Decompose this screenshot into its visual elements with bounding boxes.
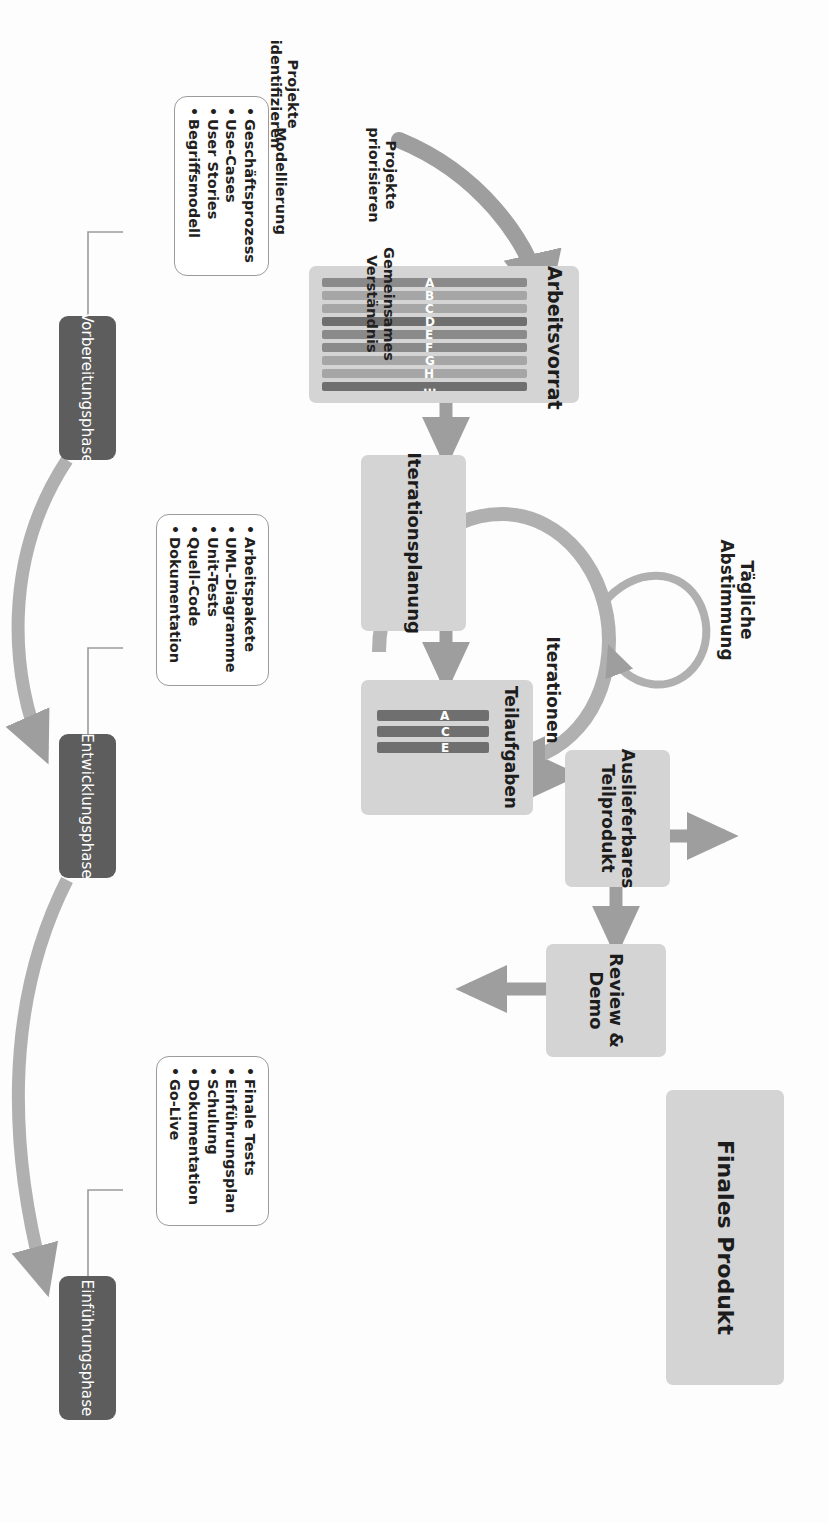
deliverables-box-entwicklungsphase[interactable]: ArbeitspaketeUML-DiagrammeUnit-TestsQuel… [156,514,269,686]
deliverable-item: Einführungsplan [222,1067,241,1213]
subtask-item-C[interactable]: C [377,726,489,737]
phase-bar-label: Vorbereitungsphase [79,312,97,464]
backlog-item-D[interactable]: D [322,317,527,326]
connector-vorbereitung [88,232,123,316]
backlog-item-C[interactable]: C [322,304,527,313]
iteration-planning-label: Iterationsplanung [403,452,423,634]
phase-bar-entwicklungsphase[interactable]: Entwicklungsphase [59,734,116,878]
connector-entwicklung [88,648,123,734]
backlog-item-G[interactable]: G [322,356,527,365]
connector-einfuehrung [88,1190,123,1276]
deliverable-box[interactable]: Auslieferbares Teilprodukt [565,750,670,887]
final-product-label: Finales Produkt [713,1140,738,1335]
diagram-canvas: Arbeitsvorrat ABCDEFGH... Teilaufgaben A… [0,0,829,1523]
label-modelling: Modellierung [272,118,289,244]
deliverable-item: Quell-Code [185,525,204,673]
subtask-item-A[interactable]: A [377,710,489,721]
phase-bar-label: Einführungsphase [79,1280,97,1417]
subtask-item-E[interactable]: E [377,742,489,753]
backlog-title: Arbeitsvorrat [544,266,566,403]
backlog-items: ABCDEFGH... [322,278,527,391]
label-prioritize-projects-line1: Projekte [382,112,399,238]
arrow-phase-vorbereitung-to-entwicklung [18,460,67,752]
backlog-item-...[interactable]: ... [322,382,527,391]
deliverable-item: Begriffsmodell [185,107,204,263]
deliverable-item: Dokumentation [166,525,185,673]
backlog-item-E[interactable]: E [322,330,527,339]
backlog-item-B[interactable]: B [322,291,527,300]
label-prioritize-projects-line2: priorisieren [364,112,381,238]
label-iterations-line1: Iterationen [543,620,563,760]
phase-bar-label: Entwicklungsphase [79,733,97,879]
deliverable-item: Geschäftsprozess [240,107,259,263]
subtasks-box[interactable]: Teilaufgaben ACE [361,680,533,815]
backlog-item-F[interactable]: F [322,343,527,352]
backlog-item-A[interactable]: A [322,278,527,287]
deliverable-item: Arbeitspakete [240,525,259,673]
final-product-box[interactable]: Finales Produkt [666,1090,784,1385]
subtasks-title: Teilaufgaben [501,680,521,815]
deliverable-item: Go-Live [166,1067,185,1213]
subtask-items: ACE [377,710,489,753]
backlog-box[interactable]: Arbeitsvorrat ABCDEFGH... [309,266,579,403]
deliverable-item: Finale Tests [240,1067,259,1213]
deliverable-item: Unit-Tests [203,525,222,673]
deliverable-label-line1: Auslieferbares [618,749,637,889]
deliverables-box-einfuehrungsphase[interactable]: Finale TestsEinführungsplanSchulungDokum… [156,1056,269,1226]
label-shared-understanding-line2: Verständnis [362,236,379,372]
label-daily-standup-line2: Abstimmung [716,520,736,680]
backlog-item-H[interactable]: H [322,369,527,378]
diagram-stage: Arbeitsvorrat ABCDEFGH... Teilaufgaben A… [0,0,829,1523]
deliverables-box-vorbereitungsphase[interactable]: GeschäftsprozessUse-CasesUser StoriesBeg… [175,96,270,276]
iteration-planning-box[interactable]: Iterationsplanung [361,455,466,631]
deliverable-label-line2: Teilprodukt [598,764,617,872]
phase-bar-einfuehrungsphase[interactable]: Einführungsphase [59,1276,116,1420]
label-prioritize-projects: Projekte priorisieren [364,112,399,238]
label-daily-standup-line1: Tägliche [737,520,757,680]
review-demo-box[interactable]: Review & Demo [546,944,666,1057]
deliverable-item: User Stories [203,107,222,263]
label-iterations: Iterationen [543,620,563,760]
label-modelling-line1: Modellierung [272,118,289,244]
daily-standup-loop-arrow [603,576,706,685]
arrow-phase-entwicklung-to-einfuehrung [18,880,67,1284]
label-shared-understanding-line1: Gemeinsames [380,236,397,372]
review-demo-label-line2: Demo [586,971,606,1029]
label-shared-understanding: Gemeinsames Verständnis [362,236,397,372]
phase-bar-vorbereitungsphase[interactable]: Vorbereitungsphase [59,316,116,460]
deliverable-item: Dokumentation [185,1067,204,1213]
deliverable-item: Use-Cases [222,107,241,263]
label-daily-standup: Tägliche Abstimmung [716,520,757,680]
review-demo-label-line1: Review & [606,953,626,1048]
deliverable-item: UML-Diagramme [222,525,241,673]
deliverable-item: Schulung [203,1067,222,1213]
